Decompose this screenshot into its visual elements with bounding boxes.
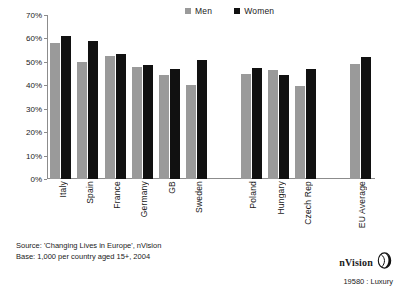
y-axis-tick-label: 10% xyxy=(26,151,42,160)
x-axis-label-hungary: Hungary xyxy=(276,181,286,215)
bar-men xyxy=(132,67,142,179)
y-axis-tick-mark xyxy=(44,109,47,110)
bar-men xyxy=(105,56,115,179)
bar-group-spacer xyxy=(321,15,348,179)
bar-men xyxy=(77,62,87,179)
x-axis-label-france: France xyxy=(112,181,122,209)
square-swatch-icon xyxy=(185,8,191,14)
y-axis-tick-mark xyxy=(44,15,47,16)
y-axis-tick-label: 70% xyxy=(26,11,42,20)
bar-group xyxy=(239,15,266,179)
y-axis-tick-mark xyxy=(44,62,47,63)
x-axis-label-gb: GB xyxy=(167,181,177,194)
x-axis-category-labels: ItalySpainFranceGermanyGBSwedenPolandHun… xyxy=(48,181,375,237)
brand-block: nVision 19580 : Luxury xyxy=(339,252,393,286)
square-swatch-icon xyxy=(234,8,240,14)
bar-group xyxy=(184,15,211,179)
source-note: Source: 'Changing Lives in Europe', nVis… xyxy=(16,240,161,262)
bar-women xyxy=(116,54,126,179)
y-axis-tick-mark xyxy=(44,38,47,39)
bar-women xyxy=(197,60,207,179)
x-axis-label-eu-average: EU Average xyxy=(357,181,367,228)
bar-women xyxy=(61,36,71,179)
brand-name: nVision xyxy=(339,257,373,268)
bar-group xyxy=(348,15,375,179)
bar-men xyxy=(350,64,360,179)
bar-group xyxy=(293,15,320,179)
y-axis-tick-label: 40% xyxy=(26,81,42,90)
y-axis-tick-label: 50% xyxy=(26,57,42,66)
y-axis-tick-mark xyxy=(44,156,47,157)
bar-men xyxy=(268,70,278,179)
y-axis-tick-label: 30% xyxy=(26,104,42,113)
x-axis-label-spain: Spain xyxy=(85,181,95,204)
x-axis-label-poland: Poland xyxy=(248,181,258,209)
bar-group xyxy=(157,15,184,179)
bar-women xyxy=(361,57,371,179)
bar-men xyxy=(295,86,305,179)
bar-group xyxy=(266,15,293,179)
y-axis-tick-label: 60% xyxy=(26,34,42,43)
y-axis-tick-mark xyxy=(44,132,47,133)
bar-group xyxy=(48,15,75,179)
bar-men xyxy=(159,75,169,179)
bar-women xyxy=(143,65,153,179)
bar-women xyxy=(170,69,180,179)
bar-women xyxy=(252,68,262,179)
base-line: Base: 1,000 per country aged 15+, 2004 xyxy=(16,251,161,262)
bar-women xyxy=(279,75,289,179)
reference-code: 19580 : Luxury xyxy=(339,277,393,286)
bars-layer xyxy=(48,15,375,179)
x-axis-label-czech-rep: Czech Rep xyxy=(303,181,313,225)
bar-group xyxy=(103,15,130,179)
source-line: Source: 'Changing Lives in Europe', nVis… xyxy=(16,240,161,251)
bar-group xyxy=(75,15,102,179)
x-axis-label-sweden: Sweden xyxy=(194,181,204,213)
y-axis-tick-label: 0% xyxy=(30,175,42,184)
bar-men xyxy=(241,74,251,179)
nvision-sphere-logo-icon xyxy=(376,252,393,273)
bar-men xyxy=(50,43,60,179)
bar-women xyxy=(306,69,316,179)
x-axis-label-italy: Italy xyxy=(58,181,68,198)
bar-group-spacer xyxy=(212,15,239,179)
y-axis-tick-mark xyxy=(44,85,47,86)
bar-men xyxy=(186,85,196,179)
bar-women xyxy=(88,41,98,179)
bar-group xyxy=(130,15,157,179)
chart-plot-area: 0%10%20%30%40%50%60%70% xyxy=(47,15,375,179)
y-axis-tick-label: 20% xyxy=(26,128,42,137)
x-axis-label-germany: Germany xyxy=(139,181,149,217)
y-axis-tick-mark xyxy=(44,179,47,180)
